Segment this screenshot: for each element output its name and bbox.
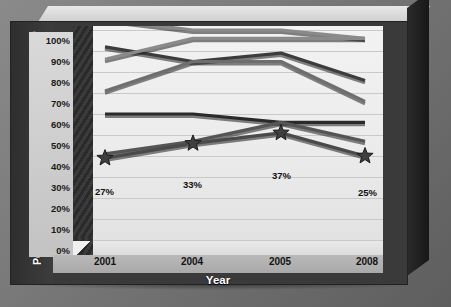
x-tick-2008: 2008 xyxy=(337,256,397,267)
plot-floor-corner xyxy=(73,241,93,255)
x-tick-2001: 2001 xyxy=(75,256,135,267)
x-tick-2005: 2005 xyxy=(250,256,310,267)
y-tick-3: 70% xyxy=(51,99,70,109)
y-tick-6: 40% xyxy=(51,162,70,172)
x-tick-2004: 2004 xyxy=(162,256,222,267)
chart-screenshot: Percent considering this issue a "top pr… xyxy=(0,0,451,307)
y-tick-8: 20% xyxy=(51,204,70,214)
data-label-2001: 27% xyxy=(95,186,114,197)
data-label-2004: 33% xyxy=(183,179,202,190)
data-label-2008: 25% xyxy=(358,187,377,198)
plot-side-wall xyxy=(73,26,94,257)
series-lines xyxy=(93,26,383,241)
y-tick-2: 80% xyxy=(51,78,70,88)
y-tick-7: 30% xyxy=(51,183,70,193)
y-tick-1: 90% xyxy=(51,57,70,67)
y-tick-4: 60% xyxy=(51,120,70,130)
frame-top-bevel xyxy=(38,6,430,22)
y-tick-panel: 100% 90% 80% 70% 60% 50% 40% 30% 20% 10%… xyxy=(29,32,73,257)
y-tick-0: 100% xyxy=(46,36,70,46)
y-tick-9: 10% xyxy=(51,225,70,235)
y-tick-5: 50% xyxy=(51,141,70,151)
star-marker xyxy=(357,148,373,163)
x-axis-title: Year xyxy=(53,274,383,286)
frame-right-bevel xyxy=(407,0,429,276)
data-label-2005: 37% xyxy=(272,170,291,181)
plot-floor xyxy=(93,241,383,255)
